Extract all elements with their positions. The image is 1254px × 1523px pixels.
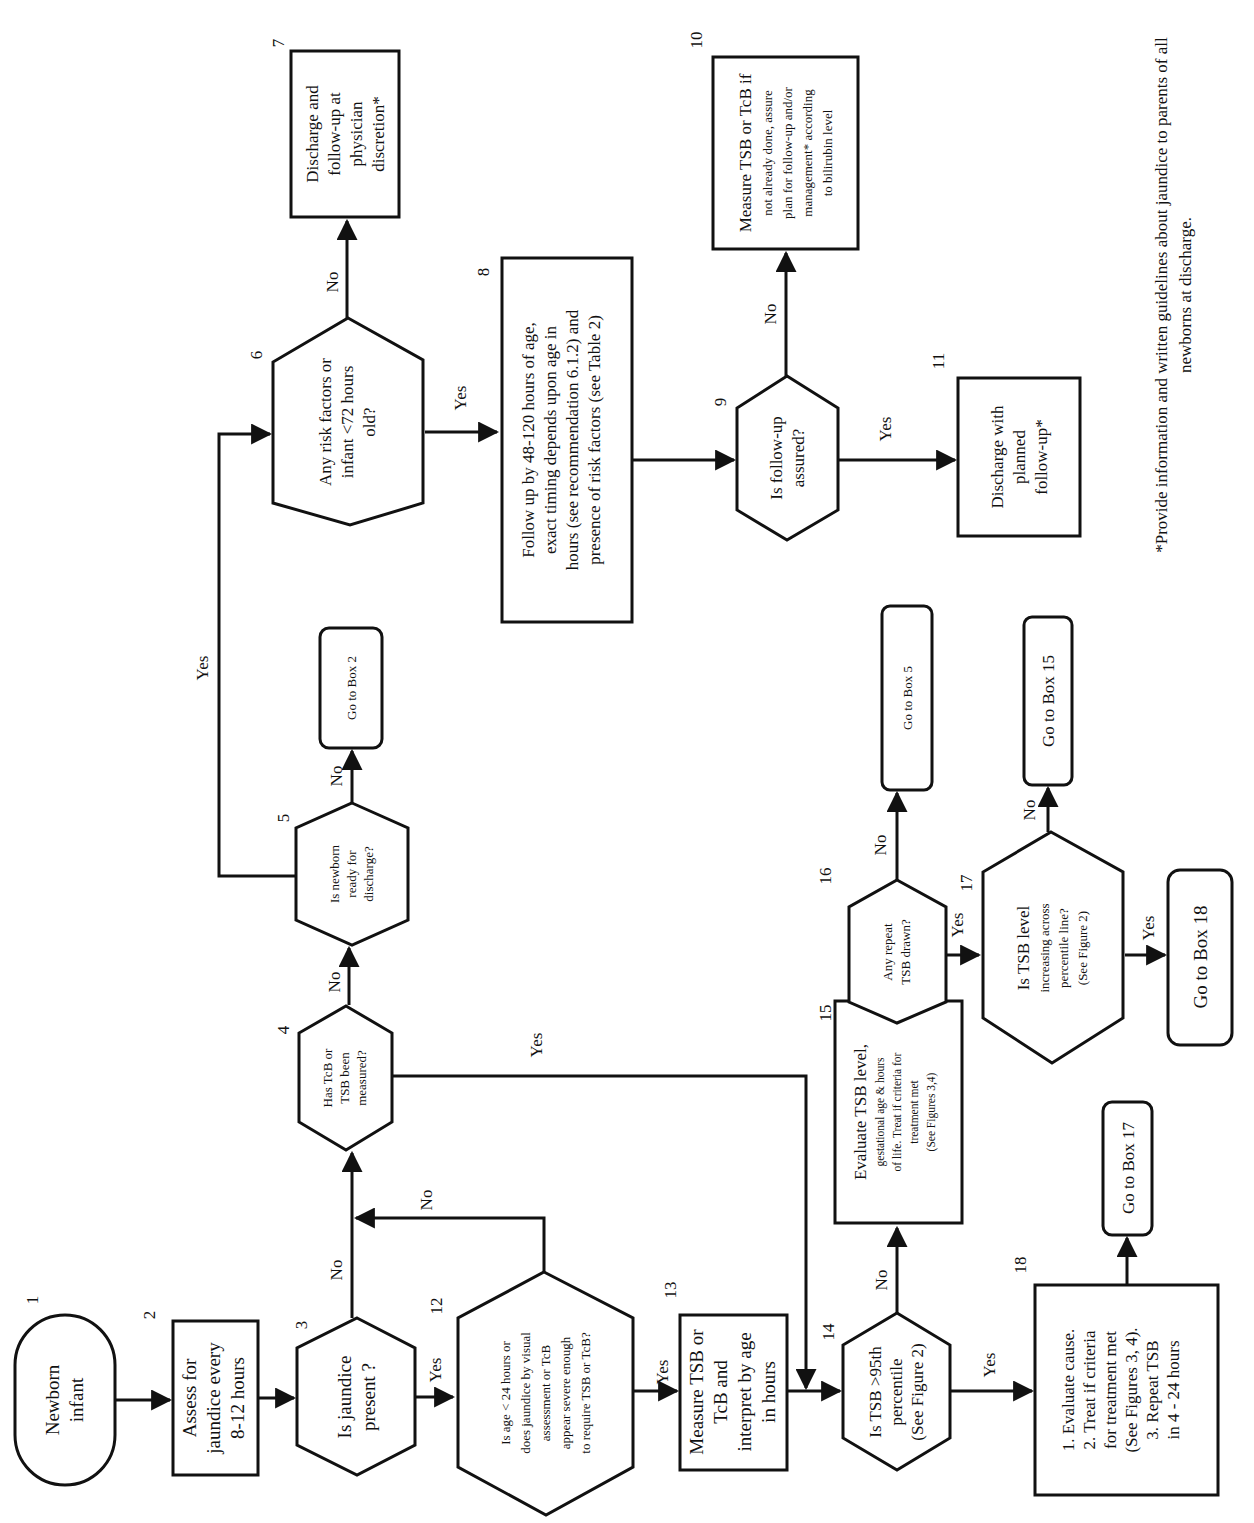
- svg-text:to bilirubin level: to bilirubin level: [820, 109, 835, 196]
- label-5-no: No: [327, 766, 346, 787]
- box-number-11: 11: [929, 353, 948, 369]
- svg-text:Discharge with: Discharge with: [988, 405, 1007, 509]
- node-9-decision: [737, 376, 838, 540]
- svg-text:exact timing depends upon age: exact timing depends upon age in: [541, 325, 560, 554]
- label-5-yes: Yes: [193, 656, 212, 681]
- node-3-decision: [297, 1318, 415, 1475]
- flowchart-canvas: Newborn infant Assess for jaundice every…: [0, 0, 1254, 1523]
- svg-text:discretion*: discretion*: [369, 96, 388, 172]
- svg-text:management* according: management* according: [800, 89, 815, 217]
- svg-text:presence of risk factors (see: presence of risk factors (see Table 2): [585, 315, 604, 565]
- svg-text:1. Evaluate cause.: 1. Evaluate cause.: [1059, 1329, 1078, 1452]
- svg-text:Evaluate TSB level,: Evaluate TSB level,: [851, 1044, 870, 1180]
- node-4-text: Has TcB or TSB been measured?: [320, 1048, 369, 1107]
- svg-text:percentile: percentile: [887, 1358, 906, 1425]
- svg-text:Measure TSB or TcB if: Measure TSB or TcB if: [736, 73, 755, 232]
- svg-text:treatment met: treatment met: [908, 1079, 920, 1143]
- svg-text:jaundice every: jaundice every: [203, 1342, 224, 1455]
- svg-text:Is jaundice: Is jaundice: [334, 1356, 355, 1439]
- node-goto5-text: Go to Box 5: [900, 666, 915, 730]
- svg-text:Newborn: Newborn: [42, 1364, 63, 1435]
- svg-text:does jaundice by visual: does jaundice by visual: [518, 1332, 533, 1454]
- node-12-text: Is age < 24 hours or does jaundice by vi…: [498, 1332, 593, 1454]
- box-number-6: 6: [247, 351, 266, 360]
- node-goto15-text: Go to Box 15: [1039, 655, 1058, 747]
- box-number-14: 14: [819, 1323, 838, 1341]
- svg-text:Is TSB >95th: Is TSB >95th: [866, 1346, 885, 1438]
- box-number-13: 13: [661, 1282, 680, 1299]
- svg-text:in 4 - 24 hours: in 4 - 24 hours: [1164, 1340, 1183, 1439]
- label-16-no: No: [871, 835, 890, 856]
- svg-text:for treatment met: for treatment met: [1101, 1331, 1120, 1449]
- box-number-7: 7: [269, 38, 288, 47]
- svg-text:Go to Box 5: Go to Box 5: [900, 666, 915, 730]
- box-number-9: 9: [711, 398, 730, 407]
- svg-text:Is TSB level: Is TSB level: [1014, 905, 1033, 990]
- node-17-decision: [983, 832, 1123, 1063]
- box-number-16: 16: [816, 868, 835, 885]
- label-3-yes: Yes: [426, 1358, 445, 1383]
- svg-text:Is newborn: Is newborn: [327, 844, 342, 903]
- label-17-no: No: [1020, 800, 1039, 821]
- svg-text:3. Repeat TSB: 3. Repeat TSB: [1143, 1340, 1162, 1439]
- svg-text:Assess for: Assess for: [179, 1358, 200, 1437]
- svg-text:Go to Box 17: Go to Box 17: [1119, 1121, 1138, 1214]
- node-goto2-text: Go to Box 2: [344, 656, 359, 720]
- node-5-text: Is newborn ready for discharge?: [327, 844, 376, 903]
- footnote: *Provide information and written guideli…: [1152, 37, 1195, 553]
- box-number-10: 10: [687, 32, 706, 49]
- box-number-2: 2: [140, 1311, 159, 1320]
- box-number-5: 5: [274, 814, 293, 823]
- svg-text:Has TcB or: Has TcB or: [320, 1048, 335, 1107]
- svg-text:interpret by age: interpret by age: [734, 1332, 755, 1451]
- node-goto18-text: Go to Box 18: [1190, 906, 1211, 1009]
- svg-text:Measure TSB or: Measure TSB or: [686, 1329, 707, 1455]
- svg-text:(See Figure 2): (See Figure 2): [908, 1343, 927, 1440]
- svg-text:newborns at discharge.: newborns at discharge.: [1176, 217, 1195, 373]
- svg-text:(See Figures 3,4): (See Figures 3,4): [925, 1072, 938, 1151]
- svg-text:present ?: present ?: [358, 1363, 379, 1431]
- box-number-4: 4: [274, 1025, 293, 1034]
- svg-text:increasing across: increasing across: [1037, 903, 1052, 992]
- svg-text:measured?: measured?: [354, 1050, 369, 1106]
- svg-text:ready for: ready for: [344, 850, 359, 898]
- svg-text:planned: planned: [1010, 430, 1029, 484]
- svg-text:TSB been: TSB been: [337, 1052, 352, 1104]
- node-goto17-text: Go to Box 17: [1119, 1121, 1138, 1214]
- node-2-text: Assess for jaundice every 8-12 hours: [179, 1342, 248, 1455]
- svg-text:Any risk factors or: Any risk factors or: [316, 358, 335, 486]
- box-number-15: 15: [816, 1005, 835, 1022]
- box-number-1: 1: [23, 1296, 42, 1305]
- label-6-no: No: [323, 272, 342, 293]
- svg-text:TSB drawn?: TSB drawn?: [898, 919, 913, 985]
- svg-text:Any repeat: Any repeat: [880, 923, 895, 981]
- svg-text:follow-up at: follow-up at: [325, 92, 344, 176]
- svg-text:to require TSB or TcB?: to require TSB or TcB?: [578, 1332, 593, 1454]
- edge-12-4: [356, 1218, 544, 1272]
- svg-text:old?: old?: [360, 407, 379, 436]
- box-number-18: 18: [1011, 1257, 1030, 1274]
- svg-text:8-12 hours: 8-12 hours: [227, 1357, 248, 1439]
- label-16-yes: Yes: [948, 913, 967, 938]
- box-number-17: 17: [957, 874, 976, 892]
- svg-text:not already done, assure: not already done, assure: [760, 90, 775, 216]
- box-number-12: 12: [427, 1298, 446, 1315]
- svg-text:percentile line?: percentile line?: [1056, 908, 1071, 988]
- svg-text:Follow up by 48-120 hours of a: Follow up by 48-120 hours of age,: [519, 322, 538, 558]
- svg-text:TcB and: TcB and: [710, 1360, 731, 1424]
- label-12-no: No: [417, 1190, 436, 1211]
- svg-text:2. Treat if criteria: 2. Treat if criteria: [1080, 1330, 1099, 1449]
- svg-text:plan for follow-up and/or: plan for follow-up and/or: [780, 86, 795, 218]
- svg-text:infant <72 hours: infant <72 hours: [338, 366, 357, 479]
- svg-text:in hours: in hours: [758, 1361, 779, 1423]
- svg-text:assessment or TcB: assessment or TcB: [538, 1345, 553, 1442]
- svg-text:(See Figure 2): (See Figure 2): [1075, 911, 1090, 985]
- svg-text:*Provide information and writt: *Provide information and written guideli…: [1152, 37, 1171, 553]
- label-14-no: No: [872, 1270, 891, 1291]
- svg-text:gestational age & hours: gestational age & hours: [874, 1057, 887, 1166]
- svg-text:Is follow-up: Is follow-up: [767, 416, 786, 500]
- label-4-no: No: [325, 972, 344, 993]
- nodes: [15, 51, 1232, 1515]
- label-14-yes: Yes: [980, 1353, 999, 1378]
- svg-text:hours (see recommendation 6.1.: hours (see recommendation 6.1.2) and: [563, 309, 582, 570]
